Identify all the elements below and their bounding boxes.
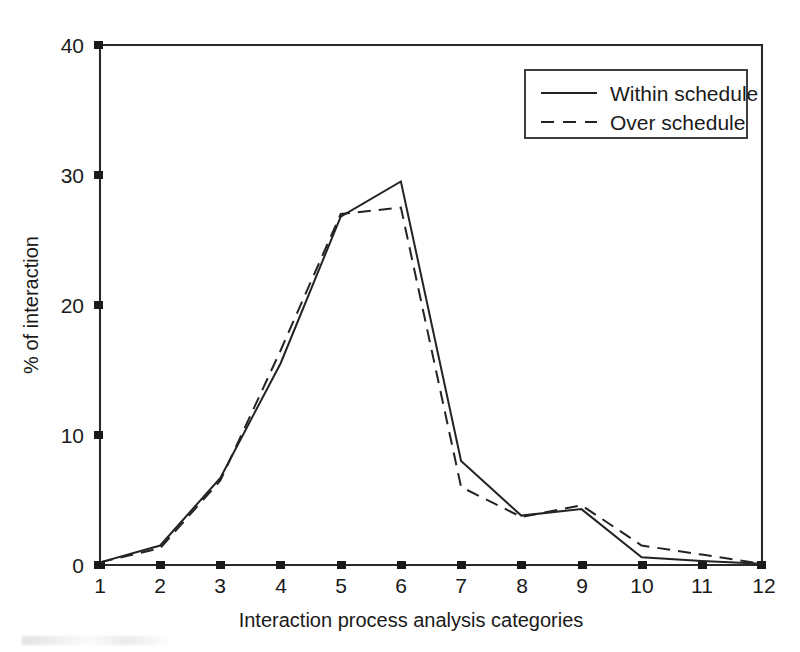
x-axis-title: Interaction process analysis categories [239, 609, 584, 631]
y-tick-label-0: 0 [72, 554, 84, 577]
legend-label-within-schedule: Within schedule [610, 82, 758, 105]
y-tick-label-40: 40 [61, 34, 84, 57]
y-tick-20 [94, 301, 103, 309]
x-tick-5 [337, 561, 346, 569]
x-tick-7 [457, 561, 466, 569]
x-tick-label-6: 6 [395, 574, 407, 597]
figure-container: 40 30 20 10 0 1 2 3 4 5 [0, 0, 800, 652]
x-tick-label-1: 1 [94, 574, 106, 597]
x-tick-label-2: 2 [154, 574, 166, 597]
x-tick-label-8: 8 [516, 574, 528, 597]
y-axis-ticks [94, 41, 103, 569]
legend-label-over-schedule: Over schedule [610, 111, 745, 134]
x-tick-3 [216, 561, 225, 569]
x-tick-4 [276, 561, 285, 569]
y-axis-title: % of interaction [20, 236, 42, 374]
x-tick-label-11: 11 [691, 574, 713, 597]
series-line-within-schedule [100, 182, 762, 564]
x-tick-label-10: 10 [630, 574, 653, 597]
y-axis-tick-labels: 40 30 20 10 0 [61, 34, 84, 577]
x-tick-label-5: 5 [335, 574, 347, 597]
y-tick-label-10: 10 [61, 424, 84, 447]
y-tick-label-20: 20 [61, 294, 84, 317]
chart-legend: Within schedule Over schedule [525, 70, 758, 138]
scan-artifact [22, 636, 172, 645]
x-tick-6 [397, 561, 406, 569]
x-tick-label-3: 3 [214, 574, 226, 597]
line-chart: 40 30 20 10 0 1 2 3 4 5 [0, 0, 800, 652]
x-tick-label-4: 4 [275, 574, 287, 597]
x-axis-tick-labels: 1 2 3 4 5 6 7 8 9 10 11 12 [94, 574, 776, 597]
y-tick-label-30: 30 [61, 164, 84, 187]
x-tick-2 [156, 561, 165, 569]
x-tick-label-7: 7 [455, 574, 467, 597]
x-tick-10 [638, 561, 647, 569]
x-tick-label-12: 12 [752, 574, 775, 597]
series-group [100, 182, 762, 564]
x-tick-9 [578, 561, 587, 569]
series-line-over-schedule [100, 208, 762, 564]
y-tick-30 [94, 171, 103, 179]
x-tick-label-9: 9 [576, 574, 588, 597]
x-tick-12 [757, 561, 766, 569]
x-tick-8 [517, 561, 526, 569]
y-tick-10 [94, 431, 103, 439]
y-tick-40 [94, 41, 103, 49]
